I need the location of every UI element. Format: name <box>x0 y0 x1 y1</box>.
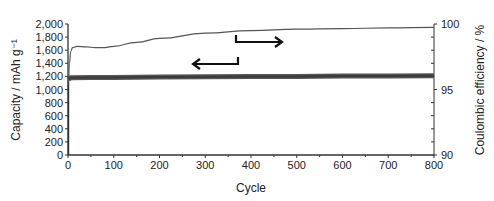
arrow-left-icon <box>194 57 238 64</box>
x-tick-label: 300 <box>196 159 214 171</box>
x-tick-label: 600 <box>333 159 351 171</box>
y-axis-title: Capacity / mAh g⁻¹ <box>9 39 23 140</box>
data-series <box>68 27 434 155</box>
y-tick-label: 1,400 <box>35 57 63 69</box>
y-tick-label: 600 <box>45 110 63 122</box>
axis-arrows <box>193 35 282 69</box>
axes <box>68 24 434 155</box>
y-tick-label: 800 <box>45 97 63 109</box>
y2-tick-label: 90 <box>441 149 453 161</box>
x-tick-label: 0 <box>65 159 71 171</box>
arrow-right-icon <box>236 35 281 42</box>
y-tick-label: 1,800 <box>35 31 63 43</box>
y-tick-label: 200 <box>45 136 63 148</box>
chart: 010020030040050060070080002004006008001,… <box>0 0 494 201</box>
x-tick-label: 400 <box>242 159 260 171</box>
x-tick-label: 100 <box>105 159 123 171</box>
y-tick-label: 2,000 <box>35 18 63 30</box>
y2-tick-label: 100 <box>441 18 459 30</box>
x-tick-label: 200 <box>150 159 168 171</box>
y-tick-label: 1,200 <box>35 70 63 82</box>
axis-ticks <box>65 24 437 158</box>
x-tick-label: 500 <box>288 159 306 171</box>
y2-tick-label: 95 <box>441 84 453 96</box>
x-axis-title: Cycle <box>236 181 266 195</box>
y-tick-label: 1,000 <box>35 84 63 96</box>
y2-axis-title: Coulombic efficiency / % <box>473 24 487 155</box>
y-tick-label: 0 <box>57 149 63 161</box>
y-tick-label: 400 <box>45 123 63 135</box>
x-tick-label: 700 <box>379 159 397 171</box>
y-tick-label: 1,600 <box>35 44 63 56</box>
